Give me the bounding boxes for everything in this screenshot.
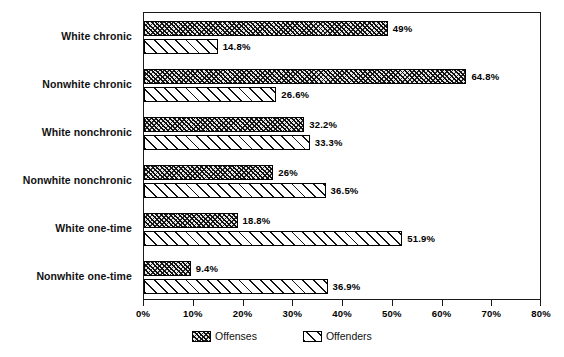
legend-label-offenders: Offenders <box>326 330 372 342</box>
x-tick-3 <box>292 300 293 306</box>
x-tick-label-0: 0% <box>136 308 150 319</box>
x-tick-label-7: 70% <box>481 308 501 319</box>
x-tick-4 <box>342 300 343 306</box>
x-tick-5 <box>392 300 393 306</box>
x-tick-6 <box>442 300 443 306</box>
bar-value-offenders-2: 33.3% <box>315 137 343 148</box>
bar-offenses-4 <box>144 213 238 228</box>
category-axis-labels: White chronicNonwhite chronicWhite nonch… <box>0 12 138 300</box>
x-tick-label-5: 50% <box>382 308 402 319</box>
bar-offenders-1 <box>144 87 276 102</box>
x-tick-label-8: 80% <box>531 308 551 319</box>
category-label-white-one-time: White one-time <box>55 222 132 234</box>
bar-offenses-3 <box>144 165 273 180</box>
x-tick-7 <box>491 300 492 306</box>
bars-container: 49%14.8%64.8%26.6%32.2%33.3%26%36.5%18.8… <box>144 13 540 299</box>
legend-label-offenses: Offenses <box>215 330 257 342</box>
x-tick-label-6: 60% <box>432 308 452 319</box>
x-tick-8 <box>540 300 541 306</box>
plot-area: 49%14.8%64.8%26.6%32.2%33.3%26%36.5%18.8… <box>143 12 541 300</box>
legend-item-offenses: Offenses <box>192 330 257 342</box>
chart-legend: OffensesOffenders <box>0 330 564 342</box>
legend-item-offenders: Offenders <box>303 330 372 342</box>
bar-offenses-5 <box>144 261 191 276</box>
bar-value-offenses-2: 32.2% <box>309 119 337 130</box>
bar-chart: White chronicNonwhite chronicWhite nonch… <box>0 0 564 357</box>
bar-value-offenses-4: 18.8% <box>243 215 271 226</box>
bar-offenders-4 <box>144 231 402 246</box>
x-tick-label-2: 20% <box>233 308 253 319</box>
category-label-nonwhite-one-time: Nonwhite one-time <box>36 270 132 282</box>
bar-value-offenses-5: 9.4% <box>196 263 218 274</box>
bar-offenses-0 <box>144 21 388 36</box>
bar-offenders-2 <box>144 135 310 150</box>
bar-offenders-3 <box>144 183 326 198</box>
bar-offenses-2 <box>144 117 304 132</box>
bar-value-offenses-3: 26% <box>278 167 298 178</box>
bar-offenses-1 <box>144 69 466 84</box>
x-tick-1 <box>193 300 194 306</box>
x-tick-label-3: 30% <box>282 308 302 319</box>
bar-value-offenses-0: 49% <box>393 23 413 34</box>
bar-offenders-5 <box>144 279 328 294</box>
bar-value-offenders-0: 14.8% <box>223 41 251 52</box>
x-tick-2 <box>243 300 244 306</box>
category-label-white-chronic: White chronic <box>61 30 132 42</box>
x-tick-label-1: 10% <box>183 308 203 319</box>
x-axis: 0%10%20%30%40%50%60%70%80% <box>143 300 541 301</box>
x-tick-label-4: 40% <box>332 308 352 319</box>
bar-value-offenders-3: 36.5% <box>331 185 359 196</box>
bar-offenders-0 <box>144 39 218 54</box>
bar-value-offenses-1: 64.8% <box>471 71 499 82</box>
x-tick-0 <box>143 300 144 306</box>
category-label-white-nonchronic: White nonchronic <box>42 126 132 138</box>
diagonal-hatch-swatch <box>303 331 322 342</box>
category-label-nonwhite-chronic: Nonwhite chronic <box>42 78 132 90</box>
bar-value-offenders-1: 26.6% <box>281 89 309 100</box>
bar-value-offenders-4: 51.9% <box>407 233 435 244</box>
category-label-nonwhite-nonchronic: Nonwhite nonchronic <box>23 174 132 186</box>
bar-value-offenders-5: 36.9% <box>333 281 361 292</box>
dense-crosshatch-swatch <box>192 331 211 342</box>
